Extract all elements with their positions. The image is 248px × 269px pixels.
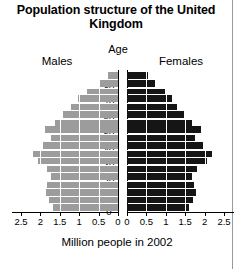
bar bbox=[127, 158, 207, 165]
x-tick-label: 2.5 bbox=[213, 217, 235, 227]
bar bbox=[127, 72, 148, 79]
bar bbox=[127, 111, 184, 118]
gridline-horizontal bbox=[127, 150, 224, 151]
gridline-horizontal bbox=[21, 150, 118, 151]
y-tick bbox=[127, 212, 131, 213]
bar bbox=[45, 126, 118, 133]
gridline-horizontal bbox=[127, 196, 224, 197]
bar bbox=[51, 134, 118, 141]
bar bbox=[127, 119, 192, 126]
gridline-vertical bbox=[205, 72, 206, 212]
bar bbox=[63, 111, 118, 118]
gridline-horizontal bbox=[21, 103, 118, 104]
gridline-horizontal bbox=[127, 103, 224, 104]
bar bbox=[127, 150, 212, 157]
bar bbox=[127, 196, 193, 203]
axis-caption: Million people in 2002 bbox=[6, 236, 228, 249]
bar bbox=[47, 181, 118, 188]
bar bbox=[53, 204, 118, 211]
gridline-horizontal bbox=[21, 119, 118, 120]
bar bbox=[47, 165, 118, 172]
x-axis-right bbox=[127, 212, 234, 213]
gridline-horizontal bbox=[127, 88, 224, 89]
bar bbox=[33, 150, 118, 157]
bar bbox=[127, 204, 189, 211]
gridline-horizontal bbox=[21, 196, 118, 197]
bar bbox=[99, 80, 118, 87]
gridline-horizontal bbox=[21, 165, 118, 166]
bar bbox=[127, 80, 155, 87]
gridline-vertical bbox=[99, 72, 100, 212]
bar bbox=[127, 103, 177, 110]
gridline-vertical bbox=[146, 72, 147, 212]
males-bar-group bbox=[21, 72, 118, 212]
gridline-horizontal bbox=[127, 134, 224, 135]
bar bbox=[127, 126, 201, 133]
bar bbox=[127, 165, 197, 172]
population-pyramid-plot: 01020304050607080 2.521.510.5000.511.522… bbox=[0, 0, 248, 269]
gridline-horizontal bbox=[127, 119, 224, 120]
females-panel bbox=[127, 72, 224, 212]
bar bbox=[55, 119, 118, 126]
gridline-horizontal bbox=[127, 181, 224, 182]
gridline-vertical bbox=[79, 72, 80, 212]
gridline-vertical bbox=[40, 72, 41, 212]
gridline-horizontal bbox=[127, 165, 224, 166]
gridline-vertical bbox=[166, 72, 167, 212]
bar bbox=[38, 158, 118, 165]
bar bbox=[46, 189, 118, 196]
bar bbox=[87, 88, 118, 95]
bar bbox=[108, 72, 118, 79]
bar bbox=[127, 173, 192, 180]
gridline-horizontal bbox=[21, 88, 118, 89]
gridline-vertical bbox=[185, 72, 186, 212]
gridline-horizontal bbox=[21, 134, 118, 135]
females-bar-group bbox=[127, 72, 224, 212]
chart-page: Population structure of the United Kingd… bbox=[0, 0, 248, 269]
bar bbox=[51, 173, 118, 180]
gridline-vertical bbox=[60, 72, 61, 212]
gridline-horizontal bbox=[21, 181, 118, 182]
bar bbox=[43, 142, 118, 149]
males-panel bbox=[21, 72, 118, 212]
bar bbox=[127, 181, 194, 188]
